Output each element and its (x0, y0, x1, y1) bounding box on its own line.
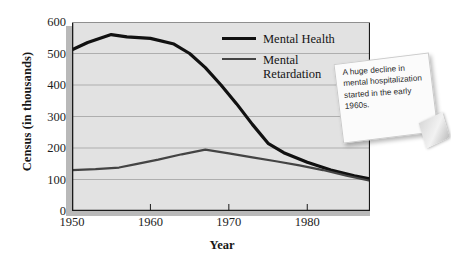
note-text: A huge decline in mental hospitalization… (342, 61, 426, 112)
legend-label: Mental Retardation (263, 53, 321, 81)
x-tick-label: 1980 (280, 215, 334, 230)
legend-line-icon-mental-health (222, 32, 256, 46)
x-tick-label: 1960 (123, 215, 177, 230)
y-tick-label: 500 (32, 48, 66, 61)
y-tick-label: 600 (32, 16, 66, 29)
legend-label: Mental Health (263, 32, 335, 46)
x-tick-label: 1970 (202, 215, 256, 230)
y-tick-label: 400 (32, 79, 66, 92)
sticky-note-annotation: A huge decline in mental hospitalization… (333, 52, 438, 143)
y-tick-label: 300 (32, 111, 66, 124)
legend-line-icon-mental-retardation (222, 53, 256, 67)
legend-item-mental-retardation: Mental Retardation (222, 53, 335, 81)
y-tick-label: 200 (32, 142, 66, 155)
legend-item-mental-health: Mental Health (222, 32, 335, 46)
x-tick-label: 1950 (45, 215, 99, 230)
x-axis-title: Year (72, 238, 372, 253)
y-tick-label: 100 (32, 174, 66, 187)
chart-legend: Mental Health Mental Retardation (222, 32, 335, 88)
